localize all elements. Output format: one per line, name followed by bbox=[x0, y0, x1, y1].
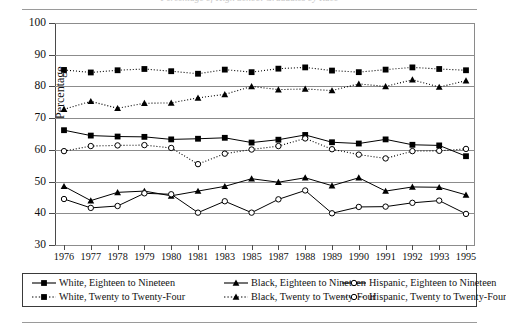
data-point bbox=[249, 69, 255, 75]
bottom-rule bbox=[22, 322, 477, 323]
series-5 bbox=[61, 136, 468, 167]
data-point bbox=[329, 147, 334, 152]
data-point bbox=[436, 143, 442, 149]
data-point bbox=[169, 145, 174, 150]
legend-item[interactable]: Hispanic, Eighteen to Nineteen bbox=[341, 277, 496, 289]
data-point bbox=[355, 80, 362, 86]
series-line bbox=[64, 80, 466, 109]
data-point bbox=[463, 153, 469, 159]
data-point bbox=[276, 197, 281, 202]
legend-label: Hispanic, Twenty to Twenty-Four bbox=[369, 291, 506, 302]
series-line bbox=[64, 138, 466, 164]
data-point bbox=[356, 152, 361, 157]
data-point bbox=[61, 127, 67, 133]
y-tick-label-90: 90 bbox=[35, 49, 47, 61]
data-point bbox=[302, 65, 308, 71]
data-point bbox=[222, 199, 227, 204]
legend-item[interactable]: Hispanic, Twenty to Twenty-Four bbox=[341, 291, 506, 303]
data-point bbox=[222, 151, 227, 156]
data-point bbox=[410, 142, 416, 148]
legend-marker-filled-triangle bbox=[223, 277, 249, 289]
legend: White, Eighteen to NineteenBlack, Eighte… bbox=[22, 273, 477, 307]
x-tick-label-1981: 1981 bbox=[188, 252, 208, 262]
data-point bbox=[356, 141, 362, 147]
data-point bbox=[195, 136, 201, 142]
x-tick-label-1990: 1990 bbox=[349, 252, 369, 262]
data-point bbox=[168, 136, 174, 142]
data-point bbox=[356, 204, 361, 209]
plot-area: Percentage 30405060708090100 19761977197… bbox=[55, 23, 475, 245]
legend-marker-filled-square bbox=[31, 291, 57, 303]
data-point bbox=[195, 71, 201, 77]
data-point bbox=[141, 100, 148, 106]
data-point bbox=[88, 205, 93, 210]
x-tick-1985 bbox=[252, 245, 253, 250]
data-point bbox=[195, 94, 202, 100]
data-point bbox=[276, 137, 282, 143]
series-1 bbox=[61, 65, 469, 77]
data-point bbox=[248, 175, 255, 181]
data-point bbox=[303, 136, 308, 141]
x-tick-1978 bbox=[118, 245, 119, 250]
data-point bbox=[195, 161, 200, 166]
x-tick-label-1980: 1980 bbox=[161, 252, 181, 262]
data-point bbox=[409, 76, 416, 82]
data-point bbox=[329, 139, 335, 145]
legend-marker-open-circle bbox=[341, 291, 367, 303]
x-tick-1976 bbox=[64, 245, 65, 250]
data-point bbox=[249, 140, 255, 146]
data-point bbox=[276, 143, 281, 148]
legend-item[interactable]: White, Twenty to Twenty-Four bbox=[31, 291, 185, 303]
data-point bbox=[142, 142, 147, 147]
data-point bbox=[61, 67, 67, 73]
x-tick-label-1987: 1987 bbox=[268, 252, 288, 262]
legend-label: White, Eighteen to Nineteen bbox=[59, 277, 175, 288]
data-point bbox=[302, 174, 309, 180]
data-point bbox=[61, 183, 68, 189]
series-line bbox=[64, 67, 466, 73]
data-point bbox=[383, 204, 388, 209]
data-point bbox=[329, 68, 335, 74]
data-point bbox=[114, 105, 121, 111]
data-point bbox=[276, 66, 282, 72]
series-2 bbox=[61, 174, 470, 203]
x-tick-1991 bbox=[386, 245, 387, 250]
x-tick-1995 bbox=[466, 245, 467, 250]
x-tick-1990 bbox=[359, 245, 360, 250]
data-point bbox=[410, 148, 415, 153]
x-tick-1993 bbox=[439, 245, 440, 250]
data-point bbox=[168, 68, 174, 74]
y-tick-label-60: 60 bbox=[35, 144, 47, 156]
data-point bbox=[88, 70, 94, 76]
y-tick-30 bbox=[49, 245, 55, 246]
y-tick-label-40: 40 bbox=[35, 208, 47, 220]
data-point bbox=[410, 65, 416, 71]
legend-label: Hispanic, Eighteen to Nineteen bbox=[369, 277, 496, 288]
legend-row: White, Twenty to Twenty-FourBlack, Twent… bbox=[23, 291, 478, 307]
data-point bbox=[142, 66, 148, 72]
x-tick-label-1977: 1977 bbox=[81, 252, 101, 262]
data-point bbox=[463, 77, 470, 83]
y-tick-label-80: 80 bbox=[35, 81, 47, 93]
legend-marker-filled-square bbox=[31, 277, 57, 289]
data-point bbox=[195, 210, 200, 215]
data-point bbox=[222, 135, 228, 141]
data-point bbox=[437, 198, 442, 203]
data-point bbox=[142, 191, 147, 196]
figure-title-strip: Percentage of High School Graduates by R… bbox=[22, 0, 477, 11]
data-point bbox=[115, 67, 121, 73]
y-tick-label-30: 30 bbox=[35, 239, 47, 251]
x-tick-1981 bbox=[198, 245, 199, 250]
data-point bbox=[249, 147, 254, 152]
data-point bbox=[87, 98, 94, 104]
data-point bbox=[248, 83, 255, 89]
x-tick-1988 bbox=[305, 245, 306, 250]
data-point bbox=[88, 143, 93, 148]
series-line bbox=[64, 178, 466, 201]
x-tick-label-1989: 1989 bbox=[322, 252, 342, 262]
data-point bbox=[169, 192, 174, 197]
legend-item[interactable]: White, Eighteen to Nineteen bbox=[31, 277, 175, 289]
x-tick-label-1985: 1985 bbox=[241, 252, 261, 262]
data-point bbox=[383, 156, 388, 161]
